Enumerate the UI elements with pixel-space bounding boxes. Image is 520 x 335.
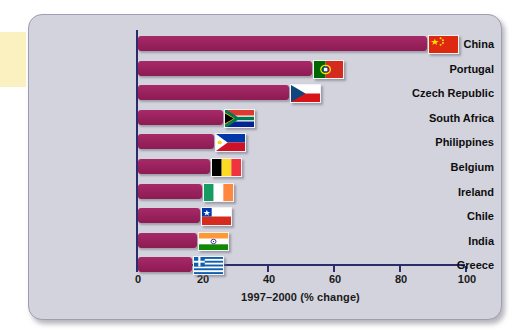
plot-area: 0 20 40 60 80 100 1997–2000 (% change) C… — [29, 15, 501, 319]
chart-panel: 0 20 40 60 80 100 1997–2000 (% change) C… — [28, 14, 502, 320]
bar — [138, 257, 192, 272]
category-label: Czech Republic — [397, 82, 501, 104]
bar — [138, 184, 202, 199]
bar-row: Chile — [29, 205, 501, 227]
page-edge-tab — [0, 32, 26, 87]
bar-row: Czech Republic — [29, 82, 501, 104]
flag-chile-icon — [201, 207, 232, 226]
category-label: Ireland — [397, 181, 501, 203]
category-label: India — [397, 230, 501, 252]
flag-china-icon — [428, 35, 459, 54]
flag-philippines-icon — [215, 133, 246, 152]
bar — [138, 233, 197, 248]
bar — [138, 159, 210, 174]
bar-row: Belgium — [29, 156, 501, 178]
category-label: Portugal — [397, 58, 501, 80]
category-label: Chile — [397, 205, 501, 227]
bar-row: South Africa — [29, 107, 501, 129]
category-label: South Africa — [397, 107, 501, 129]
flag-portugal-icon — [313, 60, 344, 79]
category-label: Philippines — [397, 131, 501, 153]
category-label: Belgium — [397, 156, 501, 178]
bar-row: Ireland — [29, 181, 501, 203]
flag-czech-republic-icon — [290, 84, 321, 103]
bar-row: Greece — [29, 254, 501, 276]
bar — [138, 134, 214, 149]
flag-south-africa-icon — [224, 109, 255, 128]
bar — [138, 85, 289, 100]
bar — [138, 61, 312, 76]
flag-ireland-icon — [203, 183, 234, 202]
bar-row: Portugal — [29, 58, 501, 80]
bar — [138, 208, 200, 223]
flag-greece-icon — [193, 256, 224, 275]
category-label: Greece — [397, 254, 501, 276]
flag-belgium-icon — [211, 158, 242, 177]
bar-row: Philippines — [29, 131, 501, 153]
bar-row: India — [29, 230, 501, 252]
bar-row: China — [29, 33, 501, 55]
bar — [138, 36, 427, 51]
bar — [138, 110, 223, 125]
x-axis-title: 1997–2000 (% change) — [136, 291, 465, 303]
flag-india-icon — [198, 232, 229, 251]
